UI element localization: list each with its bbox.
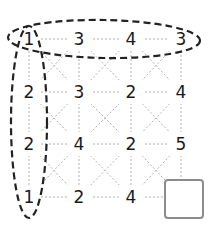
top-row-ellipse bbox=[8, 18, 201, 59]
puzzle-board: 1 3 4 3 2 3 2 4 2 4 2 5 1 2 4 bbox=[0, 0, 210, 233]
highlight-ellipses bbox=[0, 0, 210, 233]
left-column-ellipse bbox=[11, 26, 47, 218]
